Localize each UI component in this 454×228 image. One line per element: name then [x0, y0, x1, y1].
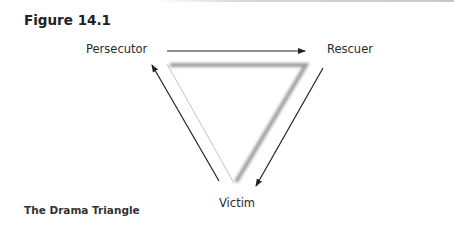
node-rescuer: Rescuer — [327, 42, 373, 56]
drama-triangle-diagram — [0, 0, 454, 228]
node-victim: Victim — [219, 196, 255, 210]
arrow-victim-to-persecutor — [152, 65, 219, 181]
arrow-rescuer-to-victim — [256, 68, 323, 186]
central-triangle — [167, 64, 306, 183]
node-persecutor: Persecutor — [86, 42, 147, 56]
figure-caption: The Drama Triangle — [24, 204, 140, 216]
triangle-shadow — [170, 65, 306, 182]
triangle-left-edge — [167, 64, 234, 183]
